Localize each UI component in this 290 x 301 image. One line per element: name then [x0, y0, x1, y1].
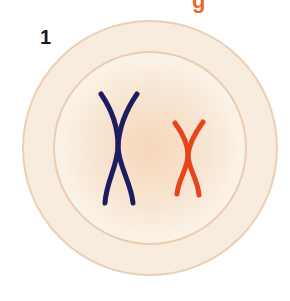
cell-diagram [0, 0, 290, 301]
nucleus [54, 52, 246, 244]
